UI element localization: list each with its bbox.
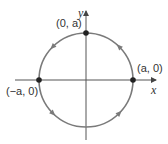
point-top-label: (0, a) xyxy=(56,17,82,29)
point-right-label: (a, 0) xyxy=(137,62,163,74)
point-top: (0, a) xyxy=(56,17,89,36)
point-left-label: (−a, 0) xyxy=(6,85,38,97)
x-axis-label: x xyxy=(150,83,157,97)
circle-diagram: x y (0, a) xyxy=(0,0,168,144)
